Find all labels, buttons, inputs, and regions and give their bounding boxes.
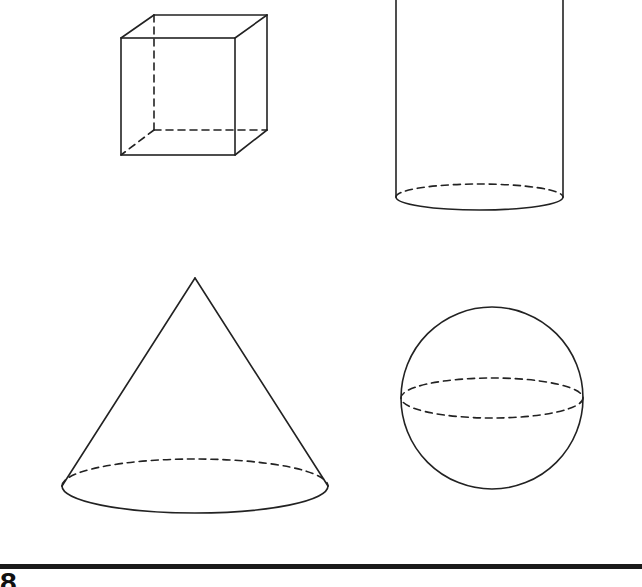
cylinder-shape: [396, 0, 563, 210]
sphere-shape: [401, 307, 583, 489]
cube-shape: [121, 15, 267, 155]
divider-bar: [0, 564, 642, 569]
solids-figure: [0, 0, 642, 587]
figure-label: 8: [0, 568, 17, 587]
cone-shape: [62, 278, 328, 513]
